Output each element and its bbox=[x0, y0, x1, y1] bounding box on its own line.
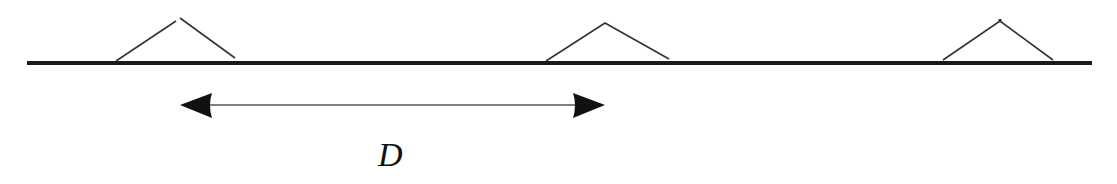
chevron-marker-3 bbox=[943, 19, 1053, 60]
distance-label: D bbox=[378, 138, 403, 172]
dimension-arrow bbox=[180, 93, 605, 118]
chevron-marker-1 bbox=[116, 18, 235, 61]
arrowhead-right-icon bbox=[573, 93, 605, 118]
spacing-diagram bbox=[0, 0, 1117, 184]
chevron-marker-2 bbox=[546, 23, 669, 61]
arrowhead-left-icon bbox=[180, 93, 212, 118]
